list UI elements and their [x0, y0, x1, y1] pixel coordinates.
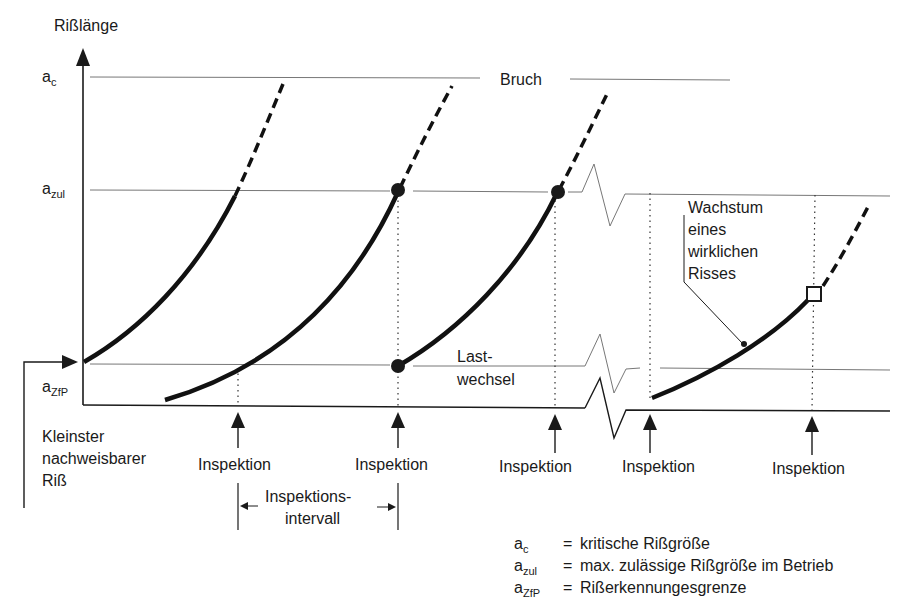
start-dot-icon — [391, 359, 405, 373]
level-label-ac: a c — [42, 68, 57, 88]
legend-item-azfp: a ZfP = Rißerkennungesgrenze — [514, 579, 746, 599]
real-crack-annotation: Wachstum eines wirklichen Risses — [684, 199, 763, 347]
smallest-crack-label-3: Riß — [42, 472, 67, 489]
inspection-arrow-5: Inspektion — [772, 416, 845, 477]
svg-text:=: = — [563, 579, 572, 596]
svg-text:ZfP: ZfP — [51, 386, 68, 398]
svg-text:a: a — [514, 579, 523, 596]
smallest-crack-label-2: nachweisbarer — [42, 450, 147, 467]
load-cycles-label-1: Last- — [457, 348, 493, 365]
svg-text:eines: eines — [688, 221, 726, 238]
ac-line — [90, 77, 480, 78]
pointer-arrow-icon — [62, 355, 78, 369]
azul-line-mid — [413, 191, 548, 192]
legend-item-ac: a c = kritische Rißgröße — [514, 535, 710, 555]
level-lines — [90, 77, 890, 393]
svg-text:Inspektions-: Inspektions- — [265, 488, 351, 505]
up-arrow-icon — [643, 414, 657, 430]
right-arrow-icon — [388, 503, 396, 511]
inspection-arrow-4: Inspektion — [622, 414, 695, 475]
svg-text:zul: zul — [523, 565, 537, 577]
svg-text:a: a — [42, 378, 51, 395]
svg-text:a: a — [514, 535, 523, 552]
up-arrow-icon — [548, 414, 562, 430]
ac-line-right — [570, 79, 730, 80]
svg-text:a: a — [514, 557, 523, 574]
svg-text:zul: zul — [51, 188, 65, 200]
svg-text:Wachstum: Wachstum — [688, 199, 763, 216]
inspection-arrow-2: Inspektion — [355, 412, 428, 473]
svg-text:Inspektion: Inspektion — [355, 456, 428, 473]
legend-item-azul: a zul = max. zulässige Rißgröße im Betri… — [514, 557, 834, 577]
svg-text:c: c — [523, 543, 529, 555]
detection-dot-icon — [551, 185, 565, 199]
svg-text:Inspektion: Inspektion — [198, 456, 271, 473]
svg-text:=: = — [563, 557, 572, 574]
inspection-arrow-3: Inspektion — [499, 414, 572, 475]
svg-text:Inspektion: Inspektion — [622, 458, 695, 475]
svg-text:Inspektion: Inspektion — [772, 460, 845, 477]
svg-text:=: = — [563, 535, 572, 552]
svg-text:a: a — [42, 68, 51, 85]
crack-curve-1 — [84, 84, 283, 362]
up-arrow-icon — [231, 412, 245, 428]
azul-line — [90, 190, 390, 191]
svg-text:Rißerkennungesgrenze: Rißerkennungesgrenze — [580, 579, 746, 596]
crack-growth-diagram: Rißlänge a c a zul a ZfP Bruch — [0, 0, 919, 605]
svg-text:ZfP: ZfP — [523, 587, 540, 599]
azfp-break-line — [585, 334, 640, 393]
svg-text:Inspektion: Inspektion — [499, 458, 572, 475]
smallest-crack-label-1: Kleinster — [42, 428, 105, 445]
real-crack-square-icon — [807, 287, 821, 301]
inspection-interval: Inspektions- intervall — [238, 483, 398, 530]
inspection-arrow-1: Inspektion — [198, 412, 271, 473]
azfp-line-right — [660, 368, 890, 370]
pointer-dot-icon — [741, 341, 747, 347]
azul-break-line — [568, 164, 890, 226]
y-axis-label: Rißlänge — [54, 17, 118, 34]
azfp-line — [90, 364, 390, 365]
y-axis-arrow-icon — [76, 48, 90, 66]
left-arrow-icon — [240, 502, 248, 510]
svg-text:c: c — [51, 76, 57, 88]
svg-text:a: a — [42, 180, 51, 197]
level-label-azfp: a ZfP — [42, 378, 68, 398]
svg-text:intervall: intervall — [285, 510, 340, 527]
fracture-label: Bruch — [500, 71, 542, 88]
load-cycles-label-2: wechsel — [456, 371, 515, 388]
level-label-azul: a zul — [42, 180, 65, 200]
up-arrow-icon — [391, 412, 405, 428]
legend: a c = kritische Rißgröße a zul = max. zu… — [514, 535, 834, 599]
svg-text:wirklichen: wirklichen — [687, 243, 758, 260]
detection-dot-icon — [391, 183, 405, 197]
up-arrow-icon — [805, 416, 819, 432]
crack-curve-3 — [398, 94, 607, 366]
svg-text:Risses: Risses — [688, 265, 736, 282]
svg-text:kritische Rißgröße: kritische Rißgröße — [580, 535, 710, 552]
y-axis — [76, 48, 90, 405]
svg-text:max. zulässige Rißgröße im Bet: max. zulässige Rißgröße im Betrieb — [580, 557, 834, 574]
